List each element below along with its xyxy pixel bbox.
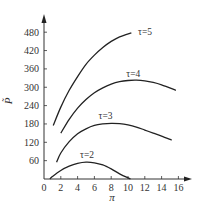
x-axis: 0246810121416 π — [42, 176, 193, 203]
y-tick-label: 240 — [24, 100, 39, 111]
y-tick-label: 300 — [24, 82, 39, 93]
x-tick-label: 14 — [157, 182, 167, 193]
y-tick-label: 120 — [24, 137, 39, 148]
y-axis-title: P̃ — [2, 97, 14, 105]
x-tick-label: 4 — [75, 182, 80, 193]
y-tick-label: 180 — [24, 118, 39, 129]
plot-area: τ=5τ=4τ=3τ=2 — [50, 27, 176, 179]
curve-label-tau-2: τ=2 — [80, 150, 94, 160]
curve-tau-4 — [61, 80, 176, 133]
y-tick-label: 60 — [29, 155, 39, 166]
x-tick-label: 6 — [92, 182, 97, 193]
y-axis: 60120180240300360420480 P̃ — [2, 14, 47, 179]
x-axis-arrow-icon — [184, 177, 192, 182]
x-tick-label: 2 — [58, 182, 63, 193]
x-tick-label: 0 — [42, 182, 47, 193]
curve-label-tau-4: τ=4 — [126, 69, 140, 79]
y-tick-label: 420 — [24, 45, 39, 56]
x-tick-label: 10 — [123, 182, 133, 193]
y-tick-label: 360 — [24, 63, 39, 74]
x-axis-title: π — [109, 191, 115, 203]
x-tick-label: 16 — [173, 182, 183, 193]
y-tick-label: 480 — [24, 27, 39, 38]
y-axis-arrow-icon — [42, 14, 47, 23]
curve-tau-3 — [57, 123, 172, 162]
curve-tau-2 — [50, 162, 131, 179]
chart: 0246810121416 π 60120180240300360420480 … — [0, 0, 200, 205]
x-tick-label: 12 — [140, 182, 150, 193]
curve-label-tau-3: τ=3 — [99, 111, 113, 121]
curve-tau-5 — [53, 33, 131, 126]
curve-label-tau-5: τ=5 — [138, 27, 152, 37]
